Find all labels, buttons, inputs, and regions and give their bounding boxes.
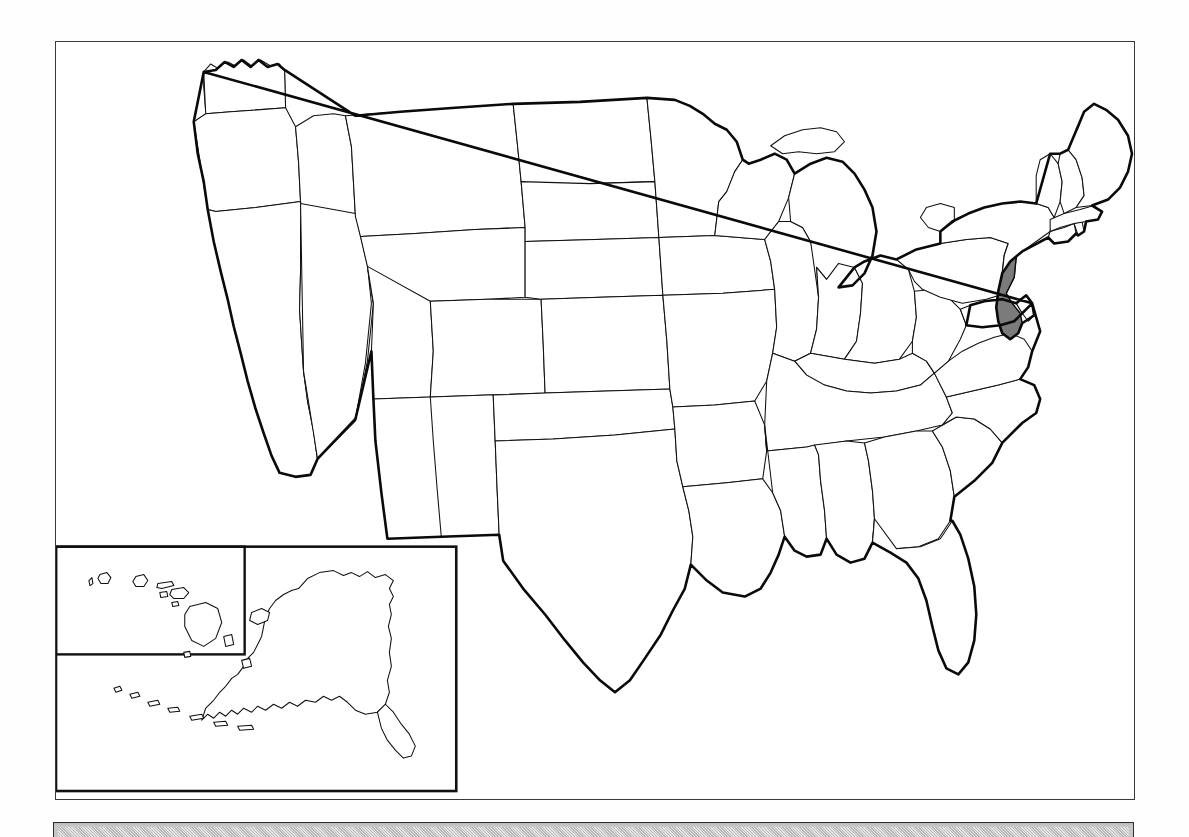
island-molokai[interactable] [157,582,174,589]
state-north-dakota[interactable] [513,98,655,187]
state-nebraska[interactable] [525,237,663,299]
page-canvas: United States Outline Map New Jersey [0,0,1189,837]
island-niihau[interactable] [89,578,93,586]
state-kansas[interactable] [541,295,670,393]
island-kauai[interactable] [98,573,111,584]
map-frame [55,41,1135,800]
map-canvas[interactable] [56,42,1134,799]
gray-panel[interactable] [53,822,1134,837]
island-kahoolawe[interactable] [172,602,179,607]
state-oregon[interactable] [194,108,301,212]
state-iowa[interactable] [659,235,775,295]
alaska-group[interactable] [114,571,415,759]
island-maui[interactable] [170,588,189,599]
state-montana[interactable] [345,104,525,237]
hawaii-islands-group[interactable] [89,573,222,647]
us-outline-map-svg [56,42,1134,799]
gray-panel-texture [58,827,1129,837]
state-colorado[interactable] [430,299,545,397]
state-texas[interactable] [495,429,693,692]
map-subject: New Jersey [0,0,1,1]
document-title: United States Outline Map [0,0,1,1]
island-hawaii[interactable] [185,603,222,647]
alaska-panhandle[interactable] [377,704,415,758]
island-oahu[interactable] [133,575,148,587]
state-arkansas[interactable] [673,401,767,487]
state-south-dakota[interactable] [521,182,659,242]
state-missouri[interactable] [663,289,777,407]
state-nevada-body[interactable] [301,204,372,459]
state-new-mexico[interactable] [430,395,499,537]
gray-panel-label [54,823,55,824]
state-louisiana[interactable] [683,479,785,597]
hawaii-inset-border [56,547,245,655]
island-lanai[interactable] [160,592,168,598]
